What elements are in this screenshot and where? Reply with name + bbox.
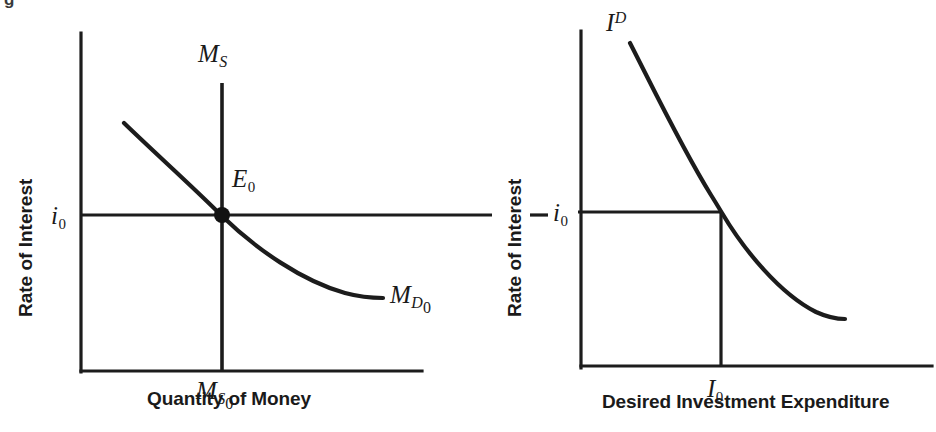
- ms-base: M: [198, 40, 219, 67]
- ms-sub: S: [219, 53, 228, 70]
- equilibrium-point-e0: [214, 207, 230, 223]
- left-y-tick-label-i0: i0: [51, 203, 66, 232]
- figure-root: g: [0, 0, 936, 432]
- right-i0-base: i: [553, 199, 560, 226]
- left-panel-money-market: [81, 33, 492, 372]
- investment-demand-curve-label: ID: [606, 10, 626, 35]
- figure-canvas: [0, 0, 936, 432]
- left-i0-sub: 0: [58, 216, 66, 232]
- md0-sub: D: [411, 294, 423, 311]
- e0-base: E: [232, 165, 247, 192]
- e0-sub: 0: [248, 179, 256, 195]
- investment-demand-curve: [630, 43, 845, 319]
- left-i0-base: i: [51, 202, 58, 229]
- md0-base: M: [390, 281, 411, 308]
- id-sup: D: [614, 9, 626, 26]
- right-x-tick-label-i0: I0: [707, 376, 723, 405]
- ms0-base: M: [196, 377, 217, 404]
- right-i0-sub: 0: [560, 213, 568, 229]
- right-x-axis-title: Desired Investment Expenditure: [602, 392, 889, 411]
- left-y-axis-title: Rate of Interest: [16, 179, 35, 317]
- left-x-tick-label-ms0: MS0: [196, 378, 233, 412]
- right-panel-investment-demand: [578, 31, 932, 368]
- right-y-axis-title: Rate of Interest: [505, 179, 524, 317]
- money-demand-curve: [124, 123, 383, 298]
- money-demand-curve-label: MD0: [390, 282, 431, 316]
- md0-sub2: 0: [423, 299, 431, 316]
- equilibrium-label-e0: E0: [232, 166, 255, 195]
- money-supply-curve-label: MS: [198, 41, 227, 70]
- i0x-sub: 0: [716, 389, 724, 405]
- ms0-sub2: 0: [225, 395, 233, 412]
- right-y-tick-label-i0: i0: [553, 200, 568, 229]
